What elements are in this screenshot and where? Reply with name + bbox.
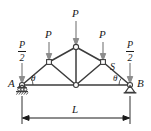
- member-top-chord-left-lower: [22, 62, 49, 85]
- load-arrow-apex: [73, 21, 78, 46]
- load-label-left-full: P: [45, 29, 52, 40]
- load-label-right-half-denominator: 2: [122, 53, 138, 63]
- member-diagonal-right: [76, 62, 103, 85]
- angle-arc-right: [119, 78, 121, 85]
- joint-center: [74, 83, 79, 88]
- joint-upper-right: [101, 60, 106, 65]
- load-label-right-half: P 2: [122, 40, 138, 63]
- dim-arrow-left: [23, 116, 30, 121]
- load-arrow-right-half: [127, 63, 132, 84]
- support-label-A: A: [8, 78, 15, 89]
- load-arrow-left-half: [19, 63, 24, 84]
- load-label-right-full: P: [99, 29, 106, 40]
- angle-label-theta-left: θ: [31, 74, 35, 83]
- member-label-S: S: [110, 62, 115, 72]
- truss-figure: P 2 P P P P 2 A B S θ θ L: [0, 0, 151, 131]
- load-label-apex: P: [72, 8, 79, 19]
- support-label-B: B: [137, 78, 144, 89]
- member-diagonal-left: [49, 62, 76, 85]
- load-label-left-half-denominator: 2: [14, 53, 30, 63]
- load-label-right-half-numerator: P: [122, 40, 138, 50]
- load-label-left-half-numerator: P: [14, 40, 30, 50]
- angle-label-theta-right: θ: [113, 74, 117, 83]
- load-label-left-half: P 2: [14, 40, 30, 63]
- joint-upper-left: [47, 60, 52, 65]
- load-arrow-left-full: [46, 42, 51, 61]
- dim-arrow-right: [123, 116, 130, 121]
- member-top-chord-right-upper: [76, 47, 103, 62]
- joint-apex: [73, 44, 78, 49]
- load-arrow-right-full: [100, 42, 105, 61]
- member-top-chord-left-upper: [49, 47, 76, 62]
- dimension-label-L: L: [72, 104, 78, 115]
